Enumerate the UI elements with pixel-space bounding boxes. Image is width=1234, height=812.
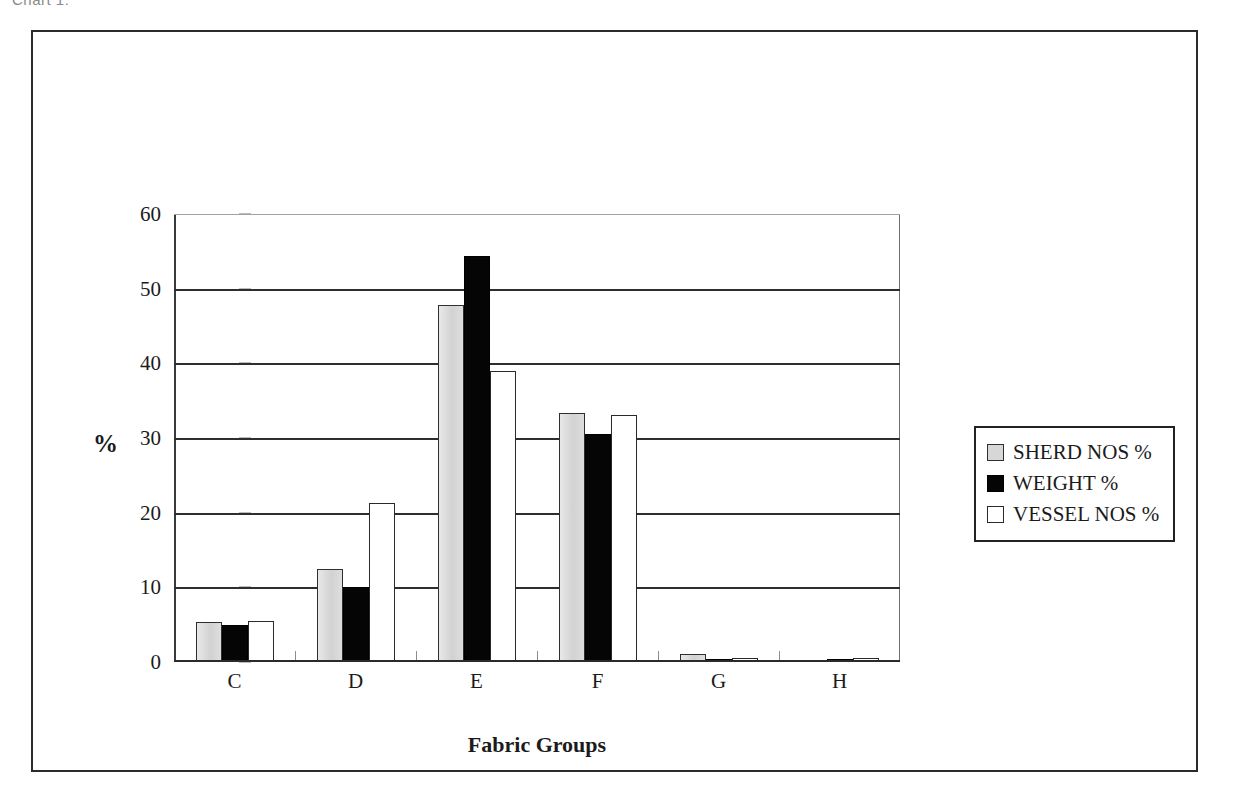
y-axis-tick-labels: 0102030405060 — [111, 214, 161, 662]
legend-label: VESSEL NOS % — [1013, 502, 1159, 527]
legend-swatch-icon — [987, 444, 1004, 461]
figure-frame: % 0102030405060 CDEFGH Fabric Groups SHE… — [31, 30, 1198, 772]
bar — [611, 415, 637, 662]
bar — [196, 622, 222, 662]
y-tick-label: 50 — [140, 276, 161, 301]
bar-group — [295, 214, 416, 662]
legend-item[interactable]: VESSEL NOS % — [987, 499, 1159, 530]
legend-item[interactable]: WEIGHT % — [987, 468, 1159, 499]
x-tick-label: H — [832, 669, 847, 694]
bar — [585, 434, 611, 662]
y-tick-label: 0 — [151, 650, 162, 675]
bar-group — [537, 214, 658, 662]
bar — [438, 305, 464, 662]
legend-swatch-icon — [987, 506, 1004, 523]
legend-item[interactable]: SHERD NOS % — [987, 437, 1159, 468]
y-tick-label: 40 — [140, 351, 161, 376]
bar-group — [779, 214, 900, 662]
legend-label: SHERD NOS % — [1013, 440, 1152, 465]
bar-group — [416, 214, 537, 662]
bar — [248, 621, 274, 662]
bar — [369, 503, 395, 662]
bar — [317, 569, 343, 662]
x-tick-label: D — [348, 669, 363, 694]
legend-swatch-icon — [987, 475, 1004, 492]
y-tick-label: 60 — [140, 202, 161, 227]
x-axis-title: Fabric Groups — [174, 732, 900, 758]
bar — [343, 587, 369, 662]
bar — [490, 371, 516, 662]
bar-group — [658, 214, 779, 662]
bar-group — [174, 214, 295, 662]
legend-label: WEIGHT % — [1013, 471, 1118, 496]
y-tick-label: 30 — [140, 426, 161, 451]
bar — [222, 625, 248, 662]
chart-legend: SHERD NOS %WEIGHT %VESSEL NOS % — [974, 426, 1175, 542]
plot-area: CDEFGH — [174, 214, 900, 662]
x-tick-label: F — [592, 669, 604, 694]
bar — [464, 256, 490, 662]
x-tick-label: E — [470, 669, 483, 694]
x-tick-label: C — [227, 669, 241, 694]
scan-caption: Chart 1: — [12, 0, 69, 8]
x-axis-line — [174, 660, 900, 662]
x-tick-label: G — [711, 669, 726, 694]
y-tick-label: 20 — [140, 500, 161, 525]
bar — [559, 413, 585, 662]
y-tick-label: 10 — [140, 575, 161, 600]
